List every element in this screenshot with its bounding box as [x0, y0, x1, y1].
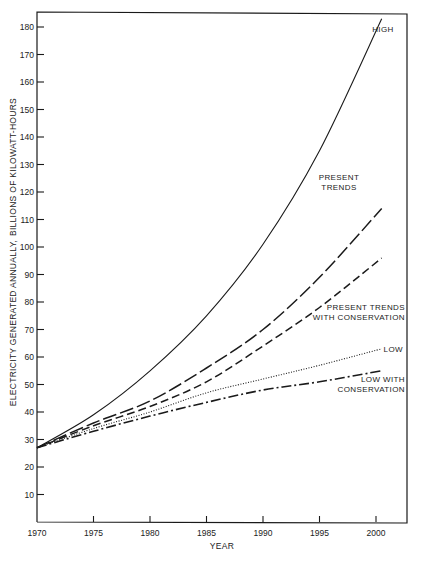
x-tick-label: 1980 [141, 528, 160, 538]
y-axis-ticks: 1020304050607080901001101201301401501601… [20, 22, 44, 500]
x-tick-label: 1975 [84, 528, 103, 538]
y-tick-label: 120 [20, 187, 34, 197]
y-tick-label: 80 [25, 297, 35, 307]
series-label-high: HIGH [372, 25, 394, 34]
y-tick-label: 90 [25, 270, 35, 280]
series-label-present-trends: PRESENTTRENDS [319, 173, 360, 192]
series-line-present-trends [37, 209, 382, 448]
series-line-low-with-conservation [37, 371, 382, 448]
y-tick-label: 160 [20, 77, 34, 87]
x-tick-label: 1995 [310, 528, 329, 538]
y-tick-label: 70 [25, 325, 35, 335]
series-line-present-trends-with-conservation [37, 258, 382, 448]
y-tick-label: 50 [25, 380, 35, 390]
axis-frame [37, 12, 407, 523]
y-axis-title-line2: BILLIONS OF KILOWATT-HOURS [8, 98, 18, 236]
y-tick-label: 110 [20, 215, 34, 225]
series-label-low: LOW [384, 345, 403, 354]
x-tick-label: 2000 [367, 528, 386, 538]
line-chart: 1020304050607080901001101201301401501601… [0, 0, 421, 562]
x-tick-label: 1990 [254, 528, 273, 538]
x-tick-label: 1970 [28, 528, 47, 538]
y-tick-label: 140 [20, 132, 34, 142]
y-tick-label: 60 [25, 352, 35, 362]
series-lines [37, 19, 382, 448]
series-label-present-trends-with-conservation: PRESENT TRENDSWITH CONSERVATION [313, 303, 405, 322]
y-axis-title-line1: ELECTRICITY GENERATED ANNUALLY, [8, 240, 18, 406]
y-tick-label: 100 [20, 242, 34, 252]
y-tick-label: 170 [20, 50, 34, 60]
series-line-low [37, 349, 382, 448]
y-tick-label: 10 [25, 490, 35, 500]
y-tick-label: 40 [25, 407, 35, 417]
y-tick-label: 130 [20, 160, 34, 170]
y-tick-label: 150 [20, 105, 34, 115]
y-tick-label: 30 [25, 435, 35, 445]
y-tick-label: 20 [25, 462, 35, 472]
series-label-low-with-conservation: LOW WITHCONSERVATION [338, 375, 405, 394]
y-tick-label: 180 [20, 22, 34, 32]
x-axis-title: YEAR [210, 541, 234, 551]
series-labels: HIGHPRESENTTRENDSPRESENT TRENDSWITH CONS… [313, 25, 405, 394]
plot-frame [37, 12, 407, 523]
x-tick-label: 1985 [197, 528, 216, 538]
x-axis-ticks: 1970197519801985199019952000 [28, 516, 386, 538]
series-line-high [37, 19, 382, 448]
